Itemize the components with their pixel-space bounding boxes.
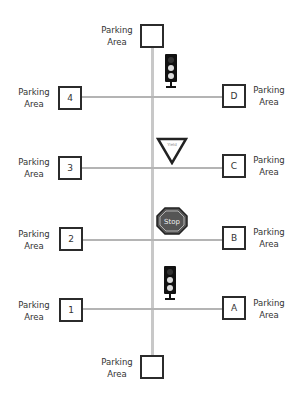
label-line2: Area (14, 168, 54, 180)
label-line2: Area (249, 96, 289, 108)
label-line1: Parking (14, 299, 54, 311)
road-row-2-B (82, 239, 222, 241)
parking-label-D: Parking Area (249, 84, 289, 108)
parking-label-4: Parking Area (14, 86, 54, 110)
label-line1: Parking (14, 228, 54, 240)
label-line1: Parking (97, 24, 137, 36)
label-line1: Parking (249, 84, 289, 96)
svg-text:Yield: Yield (166, 142, 177, 147)
parking-box-D[interactable]: D (222, 84, 246, 108)
box-label: D (231, 91, 238, 101)
parking-box-3[interactable]: 3 (58, 156, 82, 180)
label-line2: Area (14, 311, 54, 323)
stop-sign-icon: Stop (156, 207, 188, 235)
label-line1: Parking (14, 86, 54, 98)
box-label: 1 (68, 305, 74, 315)
parking-label-C: Parking Area (249, 154, 289, 178)
box-label: 2 (68, 234, 74, 244)
label-line1: Parking (249, 154, 289, 166)
parking-label-B: Parking Area (249, 226, 289, 250)
yield-sign-icon: Yield (156, 137, 188, 165)
parking-box-B[interactable]: B (222, 226, 246, 250)
label-line1: Parking (97, 356, 137, 368)
label-line2: Area (14, 240, 54, 252)
label-line2: Area (249, 238, 289, 250)
parking-label-3: Parking Area (14, 156, 54, 180)
traffic-light-icon (164, 266, 176, 294)
box-label: 3 (67, 163, 73, 173)
road-row-4-D (82, 96, 222, 98)
parking-label-2: Parking Area (14, 228, 54, 252)
label-line1: Parking (249, 297, 289, 309)
parking-box-top[interactable] (140, 24, 164, 48)
label-line2: Area (97, 36, 137, 48)
box-label: B (231, 233, 237, 243)
parking-label-top: Parking Area (97, 24, 137, 48)
parking-box-2[interactable]: 2 (59, 227, 83, 251)
traffic-light-icon (165, 54, 177, 82)
parking-box-bottom[interactable] (140, 355, 164, 379)
label-line1: Parking (14, 156, 54, 168)
label-line1: Parking (249, 226, 289, 238)
parking-label-A: Parking Area (249, 297, 289, 321)
parking-label-1: Parking Area (14, 299, 54, 323)
parking-box-C[interactable]: C (222, 154, 246, 178)
svg-text:Stop: Stop (164, 218, 180, 226)
label-line2: Area (97, 368, 137, 380)
box-label: C (231, 161, 237, 171)
parking-box-1[interactable]: 1 (59, 298, 83, 322)
parking-box-4[interactable]: 4 (58, 86, 82, 110)
parking-box-A[interactable]: A (222, 296, 246, 320)
road-row-1-A (82, 308, 222, 310)
label-line2: Area (249, 166, 289, 178)
road-row-3-C (82, 167, 222, 169)
parking-label-bottom: Parking Area (97, 356, 137, 380)
box-label: A (231, 303, 237, 313)
label-line2: Area (249, 309, 289, 321)
box-label: 4 (67, 93, 73, 103)
label-line2: Area (14, 98, 54, 110)
